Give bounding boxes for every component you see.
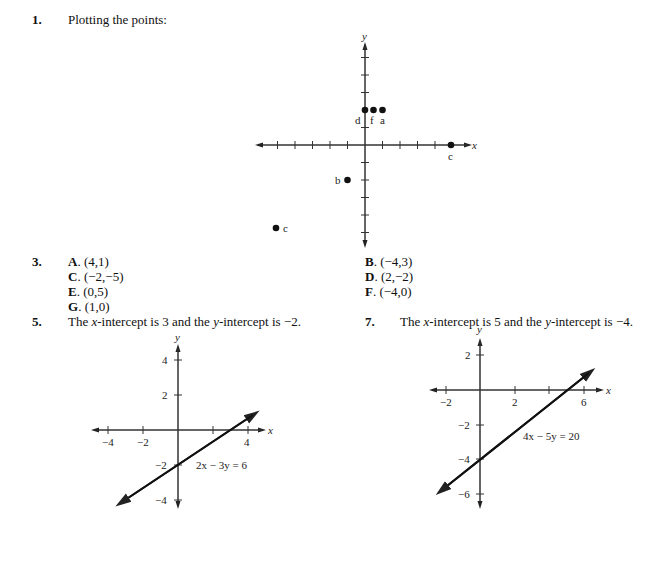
graph-2-plot: x y −4 −2 4 4 2 −2 −4 2x − 3y = 6 xyxy=(95,331,273,506)
svg-text:−4: −4 xyxy=(155,494,167,506)
svg-text:c: c xyxy=(448,150,453,162)
graph-1-y-label: y xyxy=(361,30,367,42)
point-a xyxy=(379,107,386,114)
problem-5-number: 5. xyxy=(32,314,42,330)
problem-5-text: The x-intercept is 3 and the y-intercept… xyxy=(68,314,301,330)
point-e xyxy=(273,225,280,232)
svg-text:6: 6 xyxy=(581,396,587,408)
svg-text:a: a xyxy=(380,114,385,126)
answer-d: D. (2,−2) xyxy=(365,269,413,285)
svg-text:4: 4 xyxy=(162,354,168,366)
answer-g: G. (1,0) xyxy=(68,299,110,315)
svg-text:−4: −4 xyxy=(458,453,470,465)
svg-text:2: 2 xyxy=(512,396,518,408)
svg-text:b: b xyxy=(335,174,341,186)
svg-text:x: x xyxy=(605,384,611,396)
graph-1-x-label: x xyxy=(471,139,477,151)
point-d xyxy=(362,107,369,114)
svg-text:d: d xyxy=(355,114,361,126)
answer-e: E. (0,5) xyxy=(68,284,108,300)
g2-xtick-neg4: −4 xyxy=(102,436,114,448)
answer-f: F. (−4,0) xyxy=(365,284,412,300)
svg-text:−2: −2 xyxy=(155,459,167,471)
problem-3-number: 3. xyxy=(32,254,42,270)
answer-a: A. (4,1) xyxy=(68,254,109,270)
graph-2-equation: 2x − 3y = 6 xyxy=(196,459,247,471)
svg-text:2: 2 xyxy=(465,349,471,361)
point-f xyxy=(370,107,377,114)
svg-text:2: 2 xyxy=(162,389,168,401)
point-c xyxy=(448,142,455,149)
svg-text:c: c xyxy=(283,222,288,234)
problem-7-text: The x-intercept is 5 and the y-intercept… xyxy=(400,314,633,330)
graph-1-axes: x y xyxy=(259,30,477,244)
svg-text:−2: −2 xyxy=(440,396,452,408)
svg-text:y: y xyxy=(174,331,180,343)
svg-text:4: 4 xyxy=(244,436,250,448)
answer-c: C. (−2,−5) xyxy=(68,269,123,285)
svg-text:−2: −2 xyxy=(458,419,470,431)
svg-text:x: x xyxy=(267,424,273,436)
graph-1-points xyxy=(273,107,455,232)
graph-3-equation: 4x − 5y = 20 xyxy=(523,430,580,442)
problem-7-number: 7. xyxy=(365,314,375,330)
answer-b: B. (−4,3) xyxy=(365,254,412,270)
graph-3-plot: x y −2 2 6 2 −2 −4 −6 4x − 5y = 20 xyxy=(433,323,611,505)
svg-text:−6: −6 xyxy=(458,488,470,500)
svg-text:−2: −2 xyxy=(137,436,149,448)
point-b xyxy=(344,177,351,184)
svg-text:f: f xyxy=(370,114,374,126)
